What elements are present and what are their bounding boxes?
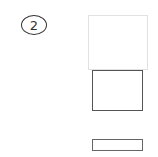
middle-rectangle [92,70,143,111]
bottom-rectangle [92,139,143,151]
step-number: 2 [30,18,38,33]
step-number-badge: 2 [21,15,47,35]
top-rectangle [88,15,148,70]
